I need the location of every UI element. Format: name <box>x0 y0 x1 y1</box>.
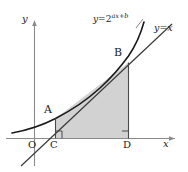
y-axis-arrowhead <box>32 20 37 26</box>
math-figure: y x O A B C D y=2ax+b y=x <box>0 0 188 172</box>
line-equation-label: y=x <box>154 23 173 33</box>
x-axis-arrowhead <box>169 136 175 141</box>
point-label-b: B <box>114 47 122 58</box>
curve-equation-label: y=2ax+b <box>93 15 129 24</box>
point-label-c: C <box>50 140 58 150</box>
x-axis-label: x <box>163 139 169 149</box>
curve-eq-exponent: ax+b <box>111 12 128 20</box>
line-y-equals-x <box>21 24 172 166</box>
point-label-d: D <box>123 140 131 150</box>
y-axis-label: y <box>22 14 28 24</box>
origin-label: O <box>28 140 36 150</box>
point-label-a: A <box>44 104 52 115</box>
line-eq-rhs: x <box>167 22 172 33</box>
curve-eq-operator: = <box>98 14 106 24</box>
